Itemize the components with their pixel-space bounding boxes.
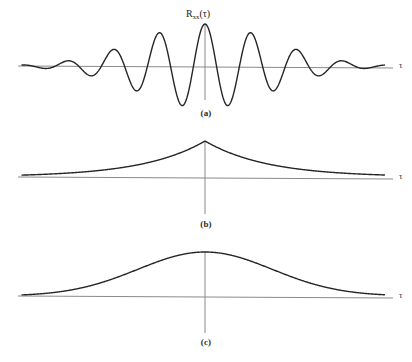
panel-a-group: [18, 24, 393, 106]
function-argument: (τ): [199, 8, 210, 19]
panel-b-group: [18, 141, 393, 214]
autocorrelation-figure: [0, 0, 412, 362]
function-name: R: [186, 8, 193, 19]
panel-a-tau-axis-label: τ: [399, 60, 402, 70]
panel-b-tau-axis-label: τ: [399, 171, 402, 181]
panel-a-caption: (a): [186, 108, 226, 118]
panel-a-curve: [22, 24, 384, 106]
panel-b-caption: (b): [186, 219, 226, 229]
panel-b-curve: [22, 141, 384, 175]
panel-c-tau-axis-label: τ: [399, 290, 402, 300]
bottom-text-fragment: [10, 353, 240, 360]
panel-c-curve: [22, 252, 384, 295]
panel-c-caption: (c): [186, 337, 226, 347]
panel-a-function-label: Rxx(τ): [186, 8, 210, 20]
panel-c-group: [18, 252, 393, 333]
